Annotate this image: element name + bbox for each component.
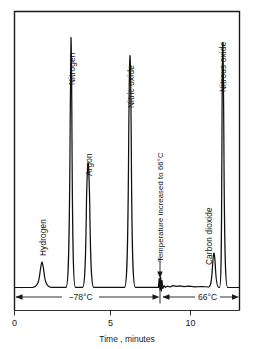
- x-tick-label-10: 10: [185, 318, 195, 328]
- zone-label-cold: −78°C: [68, 292, 92, 302]
- peak-label-nitrous-oxide: Nitrous oxide: [219, 41, 228, 92]
- x-tick-label-0: 0: [12, 318, 17, 328]
- x-tick-label-5: 5: [108, 318, 113, 328]
- chromatogram-figure: Hydrogen Nitrogen Argon Nitric oxide Car…: [0, 0, 257, 349]
- zone-label-hot: 66°C: [198, 292, 217, 302]
- peak-label-hydrogen: Hydrogen: [39, 219, 48, 256]
- peak-label-nitric-oxide: Nitric oxide: [127, 65, 136, 108]
- peak-label-nitrogen: Nitrogen: [68, 52, 77, 85]
- temperature-annotation-label: Temperature increased to 66°C: [156, 152, 165, 262]
- peak-label-carbon-dioxide: Carbon dioxide: [205, 207, 214, 265]
- peak-label-argon: Argon: [85, 153, 94, 176]
- x-axis-label: Time , minutes: [99, 334, 154, 344]
- chart-svg: Hydrogen Nitrogen Argon Nitric oxide Car…: [0, 0, 257, 349]
